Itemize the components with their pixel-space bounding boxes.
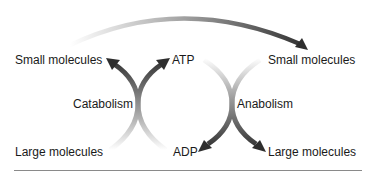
label-anabolism: Anabolism <box>237 97 293 111</box>
label-catabolism: Catabolism <box>73 97 133 111</box>
label-small-molecules-left: Small molecules <box>15 53 102 67</box>
label-adp: ADP <box>173 145 198 159</box>
divider-line <box>14 170 362 171</box>
label-large-molecules-right: Large molecules <box>268 145 356 159</box>
label-large-molecules-left: Large molecules <box>15 145 103 159</box>
label-atp: ATP <box>172 53 194 67</box>
top-arc-arrow <box>68 18 308 50</box>
label-small-molecules-right: Small molecules <box>268 53 355 67</box>
